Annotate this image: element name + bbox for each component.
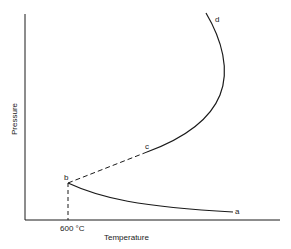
x-axis-title: Temperature <box>104 233 149 242</box>
curve-b-to-a <box>68 183 233 212</box>
point-label-d: d <box>215 15 219 24</box>
point-label-b: b <box>64 173 69 182</box>
phase-diagram: a b c d 600 °C Temperature Pressure <box>0 0 291 249</box>
curve-c-to-d <box>147 13 224 152</box>
y-axis-title: Pressure <box>10 102 19 135</box>
point-label-c: c <box>145 142 149 151</box>
curve-b-to-c-dashed <box>68 152 147 183</box>
point-label-a: a <box>235 207 240 216</box>
x-tick-label-600c: 600 °C <box>60 224 85 233</box>
